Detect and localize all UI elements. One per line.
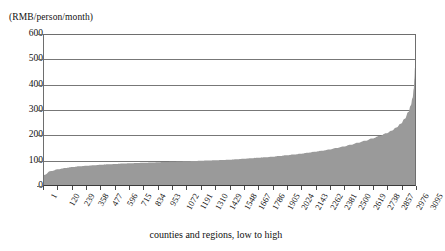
area-series (44, 35, 415, 185)
x-axis-tick-mark (115, 186, 116, 190)
x-axis-tick-mark (129, 186, 130, 190)
x-axis-tick-mark (287, 186, 288, 190)
x-axis-tick-mark (100, 186, 101, 190)
x-axis-tick-mark (72, 186, 73, 190)
x-axis-title: counties and regions, low to high (0, 229, 432, 240)
x-axis-tick-label: 2976 (414, 192, 430, 211)
x-axis-tick-mark (43, 186, 44, 190)
x-axis-tick-label: 239 (82, 192, 96, 208)
x-axis-tick-label: 358 (96, 192, 110, 208)
plot-area (43, 34, 416, 186)
area-series-path (44, 68, 415, 185)
x-axis-tick-mark (201, 186, 202, 190)
x-axis-tick-mark (273, 186, 274, 190)
x-axis-tick-mark (244, 186, 245, 190)
x-axis-tick-label: 1191 (199, 192, 215, 211)
x-axis-tick-label: 2024 (299, 192, 315, 211)
x-axis-tick-mark (359, 186, 360, 190)
x-axis-tick-label: 2262 (328, 192, 344, 211)
x-axis-tick-mark (387, 186, 388, 190)
x-axis-tick-label: 596 (125, 192, 139, 208)
x-axis-tick-label: 2619 (371, 192, 387, 211)
x-axis-tick-label: 3095 (429, 192, 445, 211)
x-axis-tick-mark (57, 186, 58, 190)
x-axis-tick-label: 1548 (242, 192, 258, 211)
x-axis-tick-label: 2738 (386, 192, 402, 211)
x-axis-tick-mark (344, 186, 345, 190)
x-axis-tick-label: 2143 (314, 192, 330, 211)
x-axis-tick-label: 120 (68, 192, 82, 208)
x-axis-tick-label: 1 (49, 192, 59, 200)
x-axis-tick-mark (143, 186, 144, 190)
x-axis-tick-label: 1905 (285, 192, 301, 211)
x-axis-tick-mark (373, 186, 374, 190)
x-axis-tick-mark (215, 186, 216, 190)
x-axis-tick-label: 477 (111, 192, 125, 208)
x-axis-tick-label: 715 (140, 192, 154, 208)
x-axis-tick-mark (158, 186, 159, 190)
x-axis-tick-label: 1786 (271, 192, 287, 211)
x-axis-tick-mark (258, 186, 259, 190)
x-axis-tick-label: 1310 (213, 192, 229, 211)
x-axis-tick-mark (86, 186, 87, 190)
x-axis-tick-label: 2500 (357, 192, 373, 211)
x-axis-tick-mark (330, 186, 331, 190)
x-axis-tick-mark (402, 186, 403, 190)
y-axis-unit-label: (RMB/person/month) (9, 12, 93, 22)
x-axis-tick-label: 2857 (400, 192, 416, 211)
x-axis-tick-label: 1429 (228, 192, 244, 211)
x-axis-tick-mark (172, 186, 173, 190)
x-axis-tick-mark (416, 186, 417, 190)
x-axis-tick-label: 834 (154, 192, 168, 208)
x-axis-tick-mark (301, 186, 302, 190)
x-axis-tick-mark (186, 186, 187, 190)
x-axis-tick-mark (230, 186, 231, 190)
x-axis-tick-label: 1667 (256, 192, 272, 211)
x-axis-tick-label: 953 (168, 192, 182, 208)
x-axis-tick-label: 2381 (343, 192, 359, 211)
x-axis-tick-mark (316, 186, 317, 190)
